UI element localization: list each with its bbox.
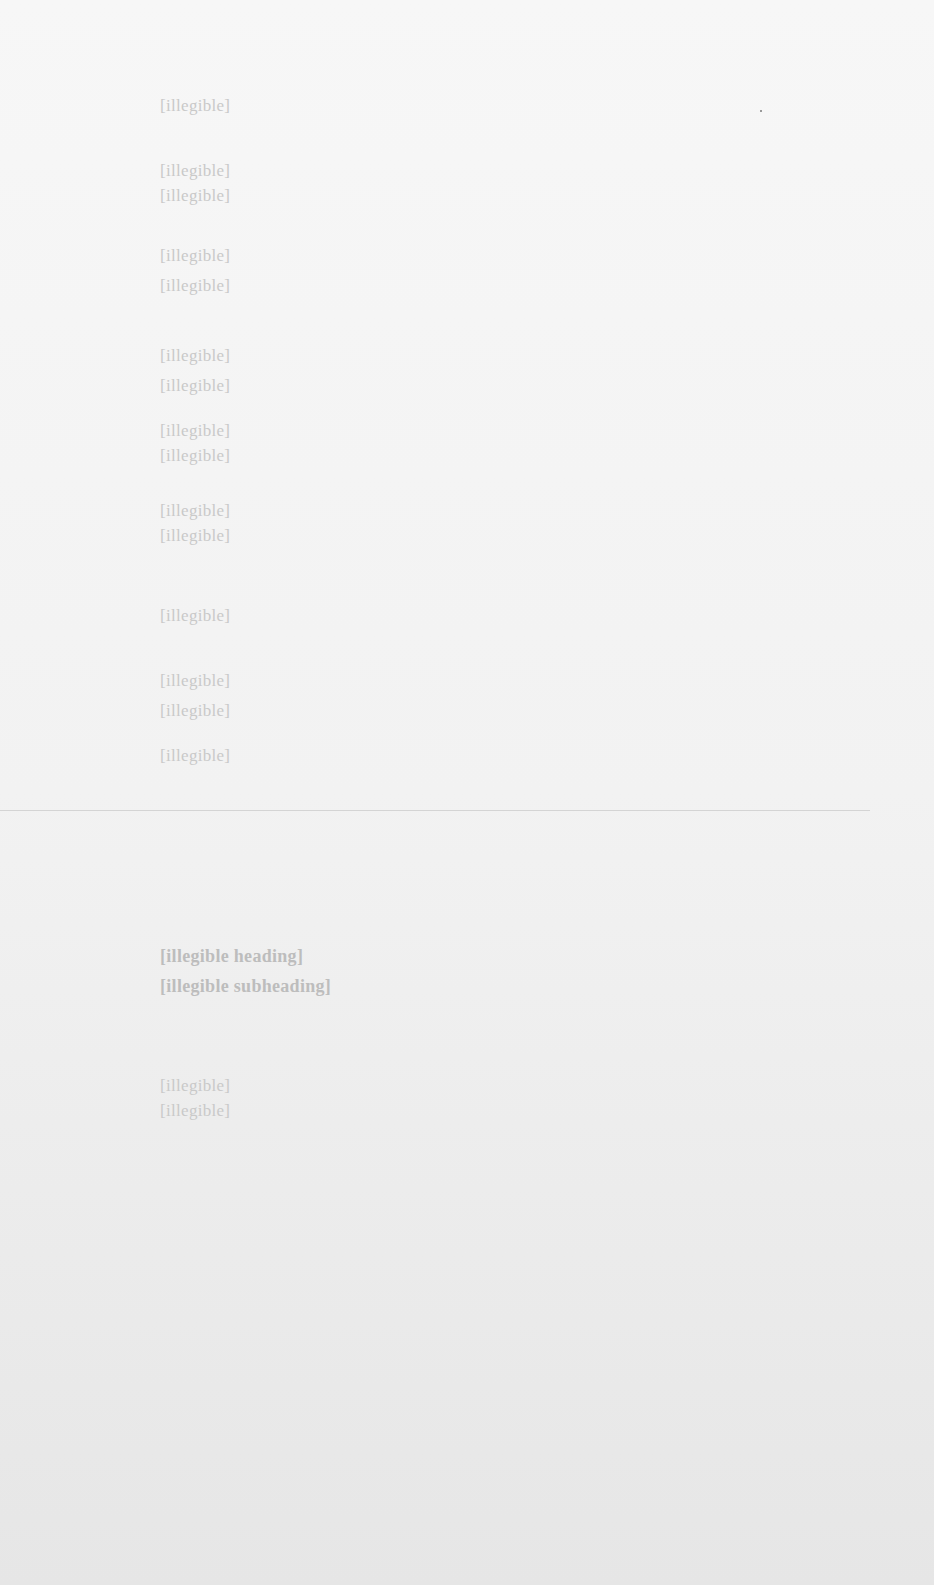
text-line: [illegible] [160,745,850,767]
text-line: [illegible] [160,500,850,522]
horizontal-rule [0,810,870,811]
text-line: [illegible] [160,160,850,182]
text-line: [illegible] [160,185,850,207]
text-line: [illegible] [160,445,850,467]
text-line: [illegible] [160,605,850,627]
text-line: [illegible] [160,420,850,442]
text-line: [illegible] [160,345,850,367]
text-line: [illegible] [160,375,850,397]
text-line: [illegible] [160,525,850,547]
text-line: [illegible] [160,275,850,297]
text-line: [illegible] [160,1100,850,1122]
text-line: [illegible] [160,1075,850,1097]
text-line: [illegible] [160,670,850,692]
section-subheading: [illegible subheading] [160,975,850,997]
text-line: [illegible] [160,95,850,117]
text-line: [illegible] [160,245,850,267]
text-line: [illegible] [160,700,850,722]
scanned-page: [illegible] [illegible] [illegible] [ill… [0,0,934,1585]
section-heading: [illegible heading] [160,945,850,967]
